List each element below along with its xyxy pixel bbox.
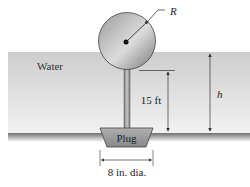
radius-leader — [148, 10, 165, 21]
radius-label: R — [169, 5, 177, 17]
buoy-plug-diagram: Water R Plug 15 ft h 8 in. dia. — [0, 0, 250, 187]
rod-height-label: 15 ft — [141, 94, 161, 106]
plug-label: Plug — [116, 132, 137, 144]
water-label: Water — [37, 60, 63, 72]
rod — [124, 68, 130, 130]
plug-diameter-label: 8 in. dia. — [108, 166, 147, 178]
depth-label: h — [217, 88, 223, 100]
